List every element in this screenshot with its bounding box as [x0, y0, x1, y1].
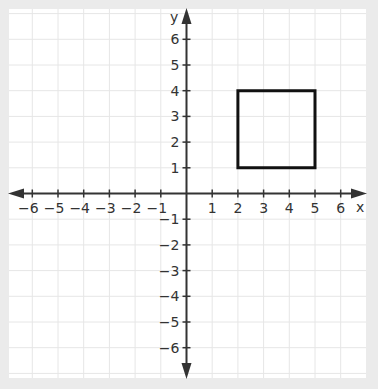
y-tick-label: 2 [171, 134, 180, 150]
y-tick-label: −2 [159, 237, 180, 253]
y-tick-label: −4 [159, 288, 180, 304]
x-tick-label: 3 [259, 200, 268, 216]
y-tick-label: 5 [171, 57, 180, 73]
x-tick-label: −4 [69, 200, 90, 216]
x-tick-label: 6 [336, 200, 345, 216]
y-tick-label: −3 [159, 263, 180, 279]
y-tick-label: −1 [159, 211, 180, 227]
x-axis-label: x [356, 199, 364, 215]
y-axis-label: y [170, 9, 178, 25]
y-tick-label: −6 [159, 340, 180, 356]
x-tick-label: 4 [285, 200, 294, 216]
x-tick-label: 5 [311, 200, 320, 216]
y-tick-label: 3 [171, 108, 180, 124]
x-tick-label: −5 [44, 200, 65, 216]
x-tick-label: 2 [233, 200, 242, 216]
y-tick-label: 4 [171, 83, 180, 99]
y-tick-label: −5 [159, 314, 180, 330]
x-tick-label: −2 [121, 200, 142, 216]
x-tick-label: −6 [18, 200, 39, 216]
y-tick-label: 6 [171, 31, 180, 47]
x-tick-label: −3 [95, 200, 116, 216]
coordinate-plane: −6−5−4−3−2−1123456−6−5−4−3−2−1123456 x y [0, 0, 378, 389]
y-tick-label: 1 [171, 160, 180, 176]
x-tick-label: 1 [208, 200, 217, 216]
